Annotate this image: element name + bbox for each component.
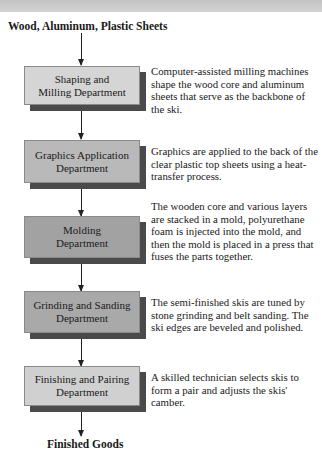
step-grinding-sanding: Grinding and Sanding Department [24, 291, 140, 339]
step-graphics-application: Graphics Application Department [24, 140, 140, 190]
step-shaping-milling: Shaping and Milling Department [24, 66, 140, 111]
step-description: Computer-assisted milling machines shape… [151, 65, 319, 115]
department-name-line: Grinding and Sanding [33, 299, 130, 312]
department-name-line: Department [56, 237, 108, 250]
department-name-line: Department [35, 162, 129, 175]
arrow-graphics-to-molding [81, 189, 82, 216]
step-description: Graphics are applied to the back of the … [151, 145, 319, 183]
arrow-input-to-shaping [81, 33, 82, 65]
arrow-shaping-to-graphics [81, 110, 82, 139]
department-name-line: Finishing and Pairing [35, 373, 130, 386]
step-description: The semi-finished skis are tuned by ston… [151, 296, 319, 334]
department-box: Graphics Application Department [24, 140, 140, 183]
step-description: The wooden core and various layers are s… [151, 200, 319, 263]
top-band [0, 0, 322, 12]
step-molding: Molding Department [24, 216, 140, 264]
input-materials-label: Wood, Aluminum, Plastic Sheets [8, 20, 167, 32]
department-box: Grinding and Sanding Department [24, 291, 140, 333]
department-name-line: Milling Department [38, 86, 126, 99]
department-box: Shaping and Milling Department [24, 66, 140, 105]
step-description: A skilled technician selects skis to for… [151, 371, 319, 409]
arrow-molding-to-grinding [81, 264, 82, 291]
department-name-line: Shaping and [38, 73, 126, 86]
finished-goods-label: Finished Goods [47, 438, 123, 450]
step-finishing-pairing: Finishing and Pairing Department [24, 366, 140, 412]
department-name-line: Department [35, 386, 130, 399]
department-name-line: Department [33, 312, 130, 325]
arrow-finishing-to-output [81, 412, 82, 436]
department-name-line: Molding [56, 224, 108, 237]
arrow-grinding-to-finishing [81, 339, 82, 366]
department-name-line: Graphics Application [35, 149, 129, 162]
department-box: Finishing and Pairing Department [24, 366, 140, 406]
department-box: Molding Department [24, 216, 140, 258]
